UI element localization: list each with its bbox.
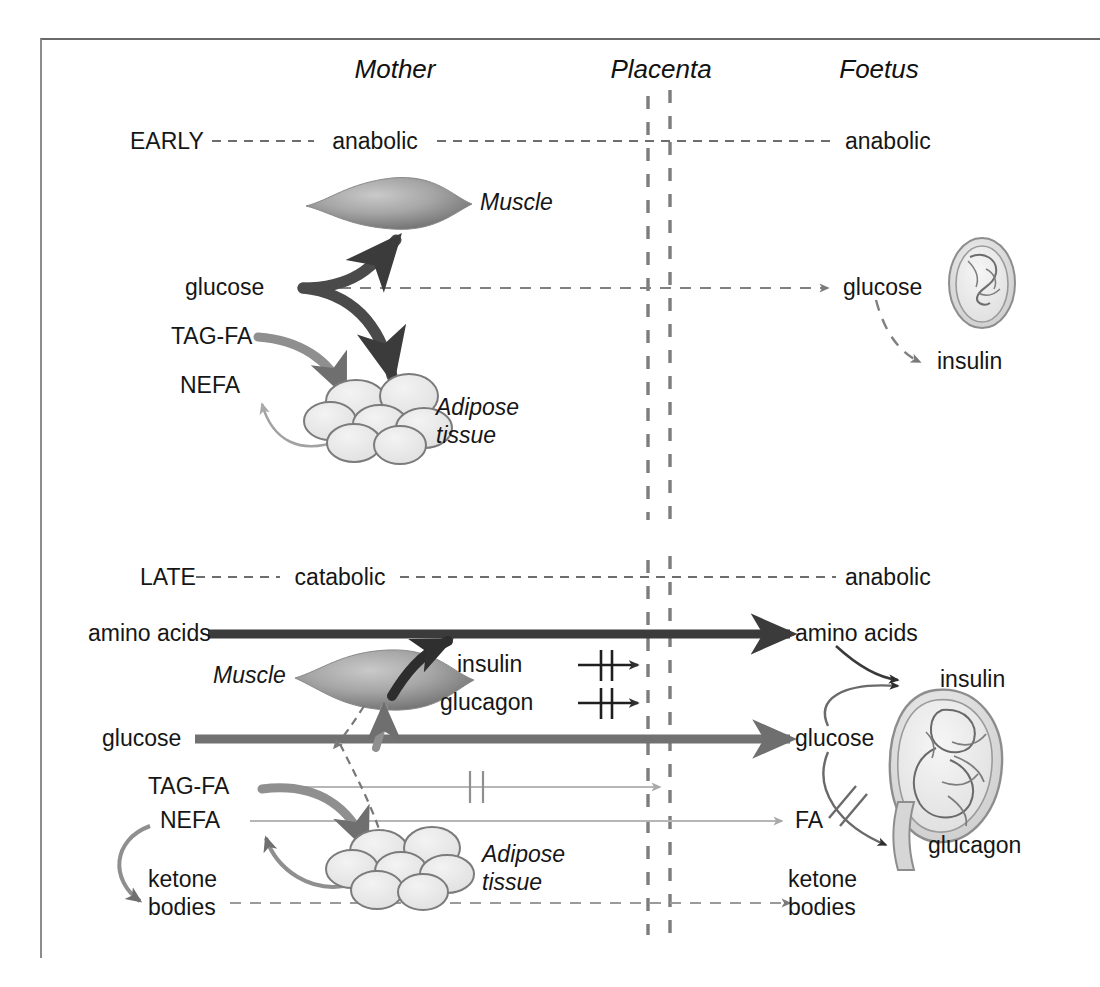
- early-mother-nefa: NEFA: [180, 374, 240, 397]
- early-foetus-state: anabolic: [845, 130, 931, 153]
- late-muscle-label: Muscle: [213, 664, 286, 687]
- late-mother-ketone-bodies: ketonebodies: [148, 865, 217, 921]
- late-blocked-glucagon: glucagon: [440, 691, 533, 714]
- early-muscle-label: Muscle: [480, 191, 553, 214]
- late-foetus-glucose: glucose: [795, 727, 874, 750]
- late-foetus-fa: FA: [795, 809, 823, 832]
- late-mother-state: catabolic: [295, 566, 386, 589]
- late-mother-nefa: NEFA: [160, 809, 220, 832]
- early-mother-state: anabolic: [332, 130, 418, 153]
- late-foetus-ketone-line2: bodies: [788, 894, 856, 920]
- late-foetus-ketone-bodies: ketonebodies: [788, 865, 857, 921]
- late-adipose-label: Adiposetissue: [482, 840, 565, 896]
- early-mother-glucose: glucose: [185, 276, 264, 299]
- late-foetus-insulin: insulin: [940, 668, 1005, 691]
- late-adipose-line2: tissue: [482, 869, 542, 895]
- early-stage-label: EARLY: [130, 130, 204, 153]
- late-blocked-insulin: insulin: [457, 653, 522, 676]
- late-foetus-amino-acids: amino acids: [795, 622, 918, 645]
- early-foetus-glucose: glucose: [843, 276, 922, 299]
- late-foetus-glucagon: glucagon: [928, 834, 1021, 857]
- late-mother-glucose: glucose: [102, 727, 181, 750]
- late-foetus-ketone-line1: ketone: [788, 866, 857, 892]
- late-stage-label: LATE: [140, 566, 196, 589]
- late-ketone-line1: ketone: [148, 866, 217, 892]
- late-adipose-line1: Adipose: [482, 841, 565, 867]
- early-adipose-label: Adiposetissue: [436, 393, 519, 449]
- late-foetus-state: anabolic: [845, 566, 931, 589]
- late-mother-tag-fa: TAG-FA: [148, 775, 229, 798]
- early-adipose-line1: Adipose: [436, 394, 519, 420]
- early-mother-tag-fa: TAG-FA: [171, 325, 252, 348]
- early-adipose-line2: tissue: [436, 422, 496, 448]
- early-foetus-insulin: insulin: [937, 350, 1002, 373]
- late-mother-amino-acids: amino acids: [88, 622, 211, 645]
- late-ketone-line2: bodies: [148, 894, 216, 920]
